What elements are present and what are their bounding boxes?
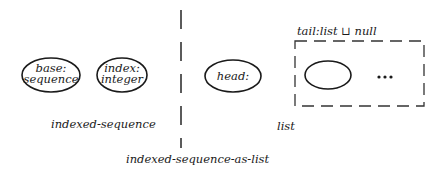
node-head-label: head: [217,69,249,83]
indexed-sequence-as-list-diagram: base: sequence index: integer indexed-se… [0,0,443,172]
tail-label: tail:list ⊔ null [297,24,377,38]
indexed-sequence-caption: indexed-sequence [51,117,156,131]
node-index: index: integer [97,58,147,92]
node-base-label-line2: sequence [24,72,79,86]
indexed-sequence-as-list-caption: indexed-sequence-as-list [126,152,270,166]
node-base: base: sequence [22,58,80,92]
node-index-label-line2: integer [101,72,145,86]
tail-node-ellipse [305,61,351,89]
list-group: head: tail:list ⊔ null list [205,24,424,133]
tail-dashed-box [295,41,424,106]
indexed-sequence-group: base: sequence index: integer indexed-se… [22,58,156,131]
list-caption: list [277,119,295,133]
node-head: head: [205,60,261,92]
ellipsis-icon [377,75,392,78]
diagram-canvas: base: sequence index: integer indexed-se… [0,0,443,172]
tail-group: tail:list ⊔ null [295,24,424,106]
